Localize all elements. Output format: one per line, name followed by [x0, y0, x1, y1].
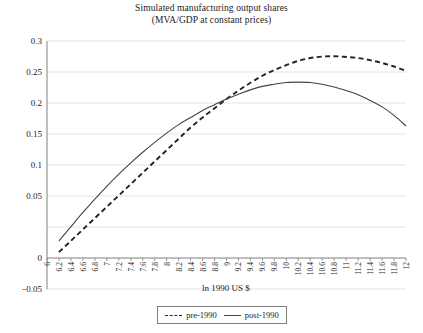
x-tick-label: 8.4 — [187, 262, 196, 272]
x-tick-label: 9.4 — [246, 262, 255, 272]
x-tick-label: 6.8 — [91, 262, 100, 272]
x-tick-label: 8 — [163, 262, 172, 266]
x-tick-label: 11 — [342, 262, 351, 269]
x-tick-label: 10.2 — [294, 262, 303, 275]
x-tick-label: 10.4 — [306, 262, 315, 275]
x-tick-label: 12 — [402, 262, 411, 270]
x-tick-label: 9.2 — [234, 262, 243, 272]
svg-text:0.3: 0.3 — [31, 36, 43, 46]
svg-text:−0.05: −0.05 — [21, 284, 42, 294]
series-line-post-1990 — [59, 82, 406, 241]
svg-text:0: 0 — [38, 253, 43, 263]
chart-canvas: 0.3 0.25 0.2 0.15 0.1 0.05 0 −0.05 66.26… — [0, 0, 423, 333]
x-tick-label: 10 — [282, 262, 291, 270]
x-tick-label: 9.8 — [270, 262, 279, 272]
x-axis-tick-labels: 66.26.46.66.877.27.47.67.888.28.48.68.89… — [43, 258, 411, 275]
legend-label-pre-1990: pre-1990 — [186, 310, 217, 320]
x-tick-label: 10.8 — [330, 262, 339, 275]
gridlines — [47, 41, 406, 289]
x-tick-label: 11.8 — [390, 262, 399, 275]
x-tick-label: 8.2 — [175, 262, 184, 272]
x-tick-label: 8.8 — [211, 262, 220, 272]
svg-text:0.2: 0.2 — [31, 98, 42, 108]
x-tick-label: 6 — [43, 262, 52, 266]
x-tick-label: 11.4 — [366, 262, 375, 275]
legend-item-post-1990: post-1990 — [224, 310, 279, 320]
x-tick-label: 7.8 — [151, 262, 160, 272]
x-tick-label: 11.6 — [378, 262, 387, 275]
x-tick-label: 10.6 — [318, 262, 327, 275]
dashed-line-icon — [165, 315, 182, 316]
data-series-group — [59, 56, 406, 252]
x-tick-label: 7.4 — [127, 262, 136, 272]
svg-text:0.25: 0.25 — [26, 67, 42, 77]
x-tick-label: 9 — [223, 262, 232, 266]
solid-line-icon — [224, 315, 241, 316]
chart-page: Simulated manufacturing output shares (M… — [0, 0, 423, 333]
x-tick-label: 6.4 — [67, 262, 76, 272]
svg-text:0.05: 0.05 — [26, 191, 42, 201]
x-tick-label: 9.6 — [258, 262, 267, 272]
svg-text:0.15: 0.15 — [26, 129, 42, 139]
series-line-pre-1990 — [59, 56, 406, 252]
chart-legend: pre-1990 post-1990 — [157, 306, 287, 324]
svg-text:0.1: 0.1 — [31, 160, 42, 170]
legend-label-post-1990: post-1990 — [245, 310, 279, 320]
x-tick-label: 11.2 — [354, 262, 363, 275]
x-tick-label: 7.6 — [139, 262, 148, 272]
x-tick-label: 8.6 — [199, 262, 208, 272]
legend-item-pre-1990: pre-1990 — [165, 310, 217, 320]
x-tick-label: 6.2 — [55, 262, 64, 272]
x-tick-label: 6.6 — [79, 262, 88, 272]
x-tick-label: 7 — [103, 262, 112, 266]
y-axis-tick-labels: 0.3 0.25 0.2 0.15 0.1 0.05 0 −0.05 — [21, 36, 42, 294]
x-tick-label: 7.2 — [115, 262, 124, 272]
x-axis-title: ln 1990 US $ — [202, 283, 250, 293]
